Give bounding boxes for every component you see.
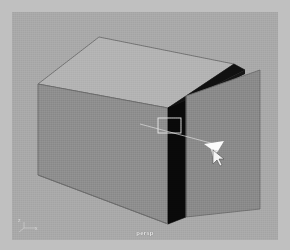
axis-label-z: z [18,218,21,223]
viewport-camera-label: persp [136,230,153,237]
axis-label-x: x [35,226,38,231]
left-front-face[interactable] [38,84,168,224]
interior-shadow-face[interactable] [168,100,186,224]
axis-gizmo-labels: z x [18,218,46,234]
3d-scene[interactable] [12,12,278,240]
polygon-cube[interactable] [38,37,260,224]
persp-viewport[interactable]: z x persp [12,12,278,240]
app-window: z x persp [0,0,290,250]
door-panel-face[interactable] [186,70,260,217]
